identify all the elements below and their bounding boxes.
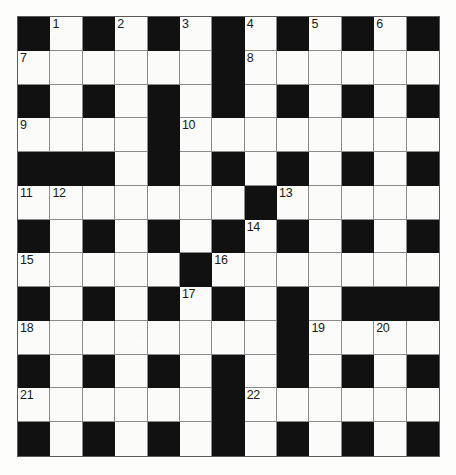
letter-square[interactable] [309,220,341,254]
letter-square[interactable] [309,287,341,321]
letter-square[interactable] [180,85,212,119]
letter-square[interactable] [309,152,341,186]
letter-square[interactable] [309,118,341,152]
letter-square[interactable] [407,253,439,287]
letter-square[interactable] [180,321,212,355]
letter-square[interactable]: 11 [18,186,50,220]
letter-square[interactable]: 20 [374,321,406,355]
letter-square[interactable] [245,253,277,287]
letter-square[interactable] [374,253,406,287]
letter-square[interactable]: 8 [245,51,277,85]
letter-square[interactable]: 1 [50,17,82,51]
letter-square[interactable] [115,253,147,287]
letter-square[interactable] [277,253,309,287]
letter-square[interactable] [245,287,277,321]
crossword-grid[interactable]: 12345678910111213141516171819202122 [17,16,440,457]
letter-square[interactable] [342,321,374,355]
letter-square[interactable] [374,388,406,422]
letter-square[interactable] [50,85,82,119]
letter-square[interactable] [180,186,212,220]
letter-square[interactable] [277,118,309,152]
letter-square[interactable] [342,51,374,85]
letter-square[interactable] [50,51,82,85]
letter-square[interactable] [148,186,180,220]
letter-square[interactable] [50,388,82,422]
letter-square[interactable] [245,85,277,119]
letter-square[interactable] [212,321,244,355]
letter-square[interactable] [115,118,147,152]
letter-square[interactable] [309,51,341,85]
letter-square[interactable] [50,422,82,456]
letter-square[interactable]: 10 [180,118,212,152]
letter-square[interactable]: 4 [245,17,277,51]
letter-square[interactable] [115,152,147,186]
letter-square[interactable] [245,152,277,186]
letter-square[interactable] [374,152,406,186]
letter-square[interactable] [309,186,341,220]
letter-square[interactable]: 9 [18,118,50,152]
letter-square[interactable] [374,51,406,85]
letter-square[interactable] [277,51,309,85]
letter-square[interactable] [407,321,439,355]
letter-square[interactable] [50,220,82,254]
letter-square[interactable]: 13 [277,186,309,220]
letter-square[interactable] [148,388,180,422]
letter-square[interactable]: 19 [309,321,341,355]
letter-square[interactable] [115,85,147,119]
letter-square[interactable] [50,355,82,389]
letter-square[interactable]: 16 [212,253,244,287]
letter-square[interactable] [309,355,341,389]
letter-square[interactable] [407,388,439,422]
letter-square[interactable]: 15 [18,253,50,287]
letter-square[interactable] [180,51,212,85]
letter-square[interactable]: 17 [180,287,212,321]
letter-square[interactable] [115,220,147,254]
letter-square[interactable] [212,118,244,152]
letter-square[interactable] [309,253,341,287]
letter-square[interactable] [277,388,309,422]
letter-square[interactable]: 18 [18,321,50,355]
letter-square[interactable]: 7 [18,51,50,85]
letter-square[interactable]: 22 [245,388,277,422]
letter-square[interactable] [407,118,439,152]
letter-square[interactable] [50,118,82,152]
letter-square[interactable] [83,388,115,422]
letter-square[interactable] [50,287,82,321]
letter-square[interactable] [342,388,374,422]
letter-square[interactable] [245,321,277,355]
letter-square[interactable] [148,321,180,355]
letter-square[interactable] [148,253,180,287]
letter-square[interactable] [115,51,147,85]
letter-square[interactable] [309,388,341,422]
letter-square[interactable] [407,186,439,220]
letter-square[interactable]: 14 [245,220,277,254]
letter-square[interactable]: 2 [115,17,147,51]
letter-square[interactable] [374,355,406,389]
letter-square[interactable] [83,321,115,355]
letter-square[interactable] [309,422,341,456]
letter-square[interactable] [407,51,439,85]
letter-square[interactable] [83,118,115,152]
letter-square[interactable] [374,422,406,456]
letter-square[interactable]: 6 [374,17,406,51]
letter-square[interactable] [374,220,406,254]
letter-square[interactable] [115,388,147,422]
letter-square[interactable] [374,85,406,119]
letter-square[interactable] [115,186,147,220]
letter-square[interactable] [342,118,374,152]
letter-square[interactable] [374,118,406,152]
letter-square[interactable] [115,321,147,355]
letter-square[interactable] [180,152,212,186]
letter-square[interactable]: 3 [180,17,212,51]
letter-square[interactable] [83,51,115,85]
letter-square[interactable] [180,220,212,254]
letter-square[interactable] [180,422,212,456]
letter-square[interactable] [148,51,180,85]
letter-square[interactable] [342,253,374,287]
letter-square[interactable] [50,253,82,287]
letter-square[interactable] [245,422,277,456]
letter-square[interactable] [245,355,277,389]
letter-square[interactable] [342,186,374,220]
letter-square[interactable] [115,287,147,321]
letter-square[interactable] [115,355,147,389]
